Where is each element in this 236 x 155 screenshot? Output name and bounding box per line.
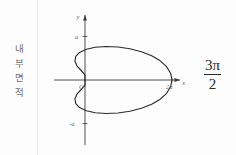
caption-char-2: 부: [15, 59, 24, 69]
page-root: 내 부 면 적 y a -a O 2a x: [0, 0, 236, 155]
y-axis-label: y: [76, 13, 81, 21]
tick-label-a: a: [75, 33, 78, 40]
korean-vertical-caption: 내 부 면 적: [8, 44, 30, 97]
caption-char-3: 면: [15, 73, 24, 83]
caption-char-4: 적: [15, 88, 24, 98]
vertical-divider: [37, 0, 38, 155]
y-axis-arrow: [83, 15, 87, 21]
three-pi-over-two-expression: 3π 2: [203, 57, 222, 92]
fraction-denominator: 2: [203, 75, 222, 92]
x-axis-arrow: [175, 78, 181, 82]
caption-char-1: 내: [15, 44, 24, 54]
origin-label: O: [79, 83, 84, 90]
cardioid-figure: y a -a O 2a x: [40, 0, 195, 155]
tick-label-minus-a: -a: [69, 120, 74, 127]
x-axis-label: x: [181, 79, 186, 87]
fraction-numerator: 3π: [203, 57, 222, 74]
tick-label-2a: 2a: [166, 83, 173, 90]
